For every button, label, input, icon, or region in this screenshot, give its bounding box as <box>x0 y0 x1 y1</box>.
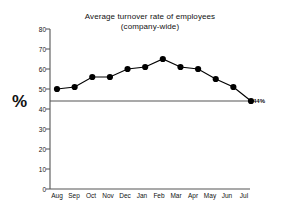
data-point: Apr: 60 <box>195 66 201 72</box>
data-point: Oct: 56 <box>89 74 95 80</box>
data-point: Mar: 61 <box>177 64 183 70</box>
chart-title: Average turnover rate of employees (comp… <box>60 12 240 32</box>
series-line <box>57 59 251 101</box>
y-tick-label: 70 <box>28 47 46 54</box>
y-tick-label: 30 <box>28 127 46 134</box>
y-tick-label: 20 <box>28 147 46 154</box>
x-tick-label: Jul <box>231 193 257 200</box>
y-axis-label: % <box>12 93 27 110</box>
chart-figure: Average turnover rate of employees (comp… <box>0 0 283 210</box>
reference-line-annotation: 44% <box>253 98 265 104</box>
data-point: Aug: 50 <box>54 86 60 92</box>
axes <box>46 29 250 189</box>
y-tick-label: 50 <box>28 87 46 94</box>
chart-subtitle: (company-wide) <box>60 22 240 32</box>
data-point: Sep: 51 <box>72 84 78 90</box>
data-point: May: 55 <box>213 76 219 82</box>
data-point: Jun: 51 <box>230 84 236 90</box>
data-point: Feb: 65 <box>160 56 166 62</box>
chart-title-main: Average turnover rate of employees <box>85 12 215 21</box>
data-point: Nov: 56 <box>107 74 113 80</box>
data-point: Dec: 60 <box>124 66 130 72</box>
y-tick-label: 60 <box>28 67 46 74</box>
y-tick-label: 10 <box>28 167 46 174</box>
y-axis-ticks <box>46 29 50 189</box>
y-tick-label: 40 <box>28 107 46 114</box>
y-tick-label: 80 <box>28 27 46 34</box>
data-point: Jan: 61 <box>142 64 148 70</box>
